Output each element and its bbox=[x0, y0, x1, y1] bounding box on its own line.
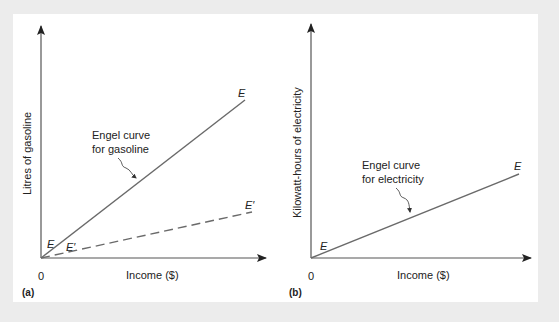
engel-curves-figure: E E E′ E′ Engel curve for gasoline Litre… bbox=[0, 0, 559, 322]
origin-label-a: 0 bbox=[38, 270, 44, 282]
annotation-arrow-electricity bbox=[396, 188, 410, 212]
x-axis-label-a: Income ($) bbox=[126, 269, 179, 281]
y-axis-label-b: Kilowatt-hours of electricity bbox=[291, 87, 303, 218]
panel-a: E E E′ E′ Engel curve for gasoline Litre… bbox=[21, 26, 266, 298]
x-axis-label-b: Income ($) bbox=[397, 269, 450, 281]
annotation-gasoline-line2: for gasoline bbox=[92, 143, 149, 155]
annotation-electricity-line1: Engel curve bbox=[362, 159, 420, 171]
panel-label-a: (a) bbox=[22, 287, 34, 298]
curve-label-e-start-b: E bbox=[320, 240, 328, 252]
origin-label-b: 0 bbox=[308, 270, 314, 282]
curve-label-e-start-a: E bbox=[47, 238, 55, 250]
panel-b: E E Engel curve for electricity Kilowatt… bbox=[289, 24, 531, 298]
curve-label-eprime-start: E′ bbox=[66, 241, 76, 253]
annotation-gasoline-line1: Engel curve bbox=[92, 129, 150, 141]
annotation-arrow-gasoline bbox=[118, 158, 136, 178]
annotation-electricity-line2: for electricity bbox=[362, 173, 424, 185]
y-axis-label-a: Litres of gasoline bbox=[21, 112, 33, 195]
engel-curve-gasoline bbox=[41, 100, 245, 258]
curve-label-eprime-end: E′ bbox=[245, 199, 255, 211]
panel-label-b: (b) bbox=[289, 287, 302, 298]
curve-label-e-end-b: E bbox=[514, 160, 522, 172]
engel-curve-electricity bbox=[311, 174, 519, 258]
curve-label-e-end-a: E bbox=[238, 87, 246, 99]
